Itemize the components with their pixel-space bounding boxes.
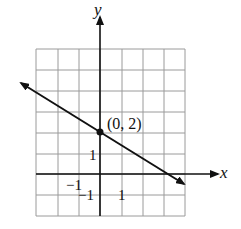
x-tick-label-1: 1: [118, 188, 126, 203]
y-tick-label-1: 1: [89, 148, 97, 163]
y-tick-label-neg1: −1: [78, 188, 94, 203]
point-marker: [97, 129, 104, 136]
y-axis-label: y: [94, 1, 102, 18]
grid: [36, 49, 185, 216]
x-axis-label: x: [220, 164, 228, 181]
point-label: (0, 2): [107, 116, 142, 132]
graphed-line: [100, 132, 184, 184]
graphed-line-left: [21, 83, 100, 132]
coordinate-graph: y x (0, 2) 1 −1 −1 1: [0, 0, 241, 229]
